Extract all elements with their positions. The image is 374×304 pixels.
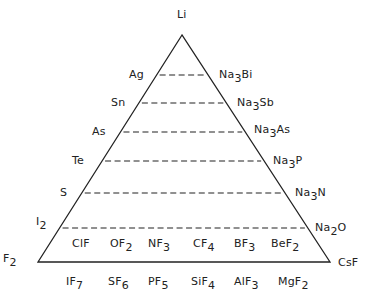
compound-label: SF6 [108,276,129,288]
compound-label: SiF4 [191,276,215,288]
vertex-label-f2: F2 [3,253,17,265]
ternary-diagram: Li F2 CsF Ag Sn As Te S I2 Na3Bi Na3Sb N… [0,0,374,304]
left-label: Sn [111,97,125,109]
compound-label: BF3 [234,238,255,250]
apex-text: Li [177,8,187,21]
left-label: Te [72,155,84,167]
left-label: I2 [36,216,47,228]
compound-label: BeF2 [271,238,299,250]
compound-label: ClF [72,238,90,250]
right-label: Na3Bi [219,69,253,81]
compound-label: AlF3 [234,276,259,288]
vertex-subscript: 2 [10,256,17,269]
right-label: Na3Sb [237,97,274,109]
right-label: Na3N [295,187,326,199]
right-label: Na2O [315,222,346,234]
triangle-graphic [0,0,374,304]
vertex-text: CsF [338,256,358,269]
compound-label: MgF2 [278,276,309,288]
compound-label: PF5 [148,276,169,288]
left-label: Ag [129,69,144,81]
compound-label: CF4 [193,238,215,250]
apex-label-li: Li [177,9,187,21]
compound-label: OF2 [110,238,133,250]
left-label: As [92,126,106,138]
vertex-label-csf: CsF [338,257,358,269]
right-label: Na3As [254,124,290,136]
right-label: Na3P [273,155,302,167]
compound-label: NF3 [148,238,170,250]
left-label: S [60,187,67,199]
compound-label: IF7 [66,276,83,288]
